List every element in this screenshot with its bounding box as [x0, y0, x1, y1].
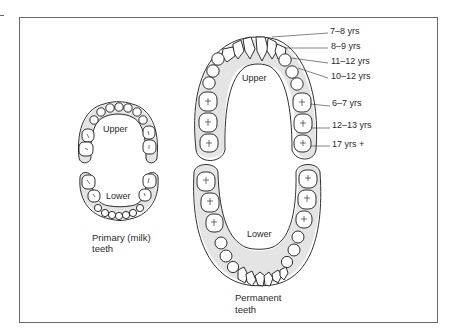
permanent-upper-label: Upper — [242, 73, 267, 83]
permanent-caption-line1: Permanent — [235, 292, 281, 303]
age-label-lateral-incisor: 8–9 yrs — [331, 41, 361, 51]
age-label-premolars: 10–12 yrs — [331, 71, 371, 81]
primary-caption-line2: teeth — [92, 243, 113, 254]
age-label-second-molar: 12–13 yrs — [332, 120, 372, 130]
primary-upper-label: Upper — [103, 124, 128, 134]
age-label-canine: 11–12 yrs — [331, 56, 370, 66]
teeth-diagram — [0, 0, 451, 336]
age-label-third-molar: 17 yrs + — [332, 139, 364, 149]
age-label-central-incisor: 7–8 yrs — [330, 26, 360, 36]
permanent-caption-line2: teeth — [235, 304, 256, 315]
permanent-upper-arch — [195, 37, 317, 161]
permanent-lower-arch — [194, 165, 321, 287]
primary-caption-line1: Primary (milk) — [92, 232, 151, 243]
primary-lower-label: Lower — [106, 191, 131, 201]
permanent-lower-label: Lower — [247, 229, 272, 239]
age-label-first-molar: 6–7 yrs — [332, 98, 362, 108]
